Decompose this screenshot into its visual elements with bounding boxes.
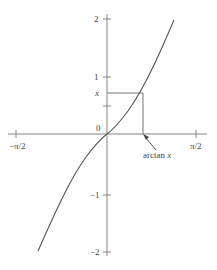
arctan-x-label: arctan x [143,150,171,160]
x-label-pi-half: π/2 [190,141,202,151]
y-label-neg2: −2 [90,247,100,257]
x-label-neg-pi-half: −π/2 [9,141,26,151]
arctan-arrow-head [143,134,149,140]
arctan-var: x [166,150,171,160]
tan-arctan-chart: 2 1 x 0 −1 −2 −π/2 π/2 arctan x [0,0,217,270]
y-label-1: 1 [94,72,99,82]
y-label-x: x [94,88,99,98]
arctan-text: arctan [143,150,167,160]
y-label-2: 2 [94,14,99,24]
y-label-neg1: −1 [90,190,100,200]
y-label-0: 0 [96,123,101,133]
tan-curve [38,20,174,251]
